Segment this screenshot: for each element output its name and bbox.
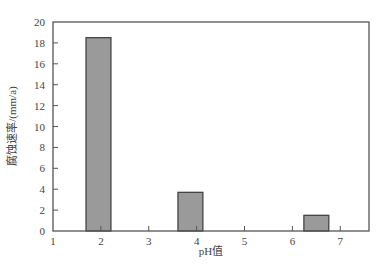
x-tick-label: 2 [98, 235, 104, 247]
y-tick-label: 18 [34, 37, 46, 49]
x-tick-label: 3 [146, 235, 152, 247]
bar [178, 192, 203, 231]
y-tick-label: 10 [34, 121, 46, 133]
x-axis-title: pH值 [199, 245, 223, 257]
bar-chart: 02468101214161820 1234567 pH值 腐蚀速率/(mm/a… [0, 0, 385, 274]
y-axis-title: 腐蚀速率/(mm/a) [5, 86, 19, 166]
bars-group [86, 38, 329, 231]
y-tick-label: 12 [34, 100, 45, 112]
y-tick-label: 4 [40, 183, 46, 195]
bar [86, 38, 111, 231]
y-axis-ticks: 02468101214161820 [34, 16, 58, 237]
x-tick-label: 6 [290, 235, 296, 247]
y-tick-label: 0 [40, 225, 46, 237]
y-tick-label: 20 [34, 16, 46, 28]
x-tick-label: 7 [338, 235, 344, 247]
bar [304, 215, 329, 231]
y-tick-label: 14 [34, 79, 46, 91]
y-tick-label: 6 [40, 162, 46, 174]
y-tick-label: 8 [40, 141, 46, 153]
x-tick-label: 5 [242, 235, 248, 247]
y-tick-label: 2 [40, 204, 46, 216]
y-tick-label: 16 [34, 58, 46, 70]
x-tick-label: 1 [50, 235, 56, 247]
